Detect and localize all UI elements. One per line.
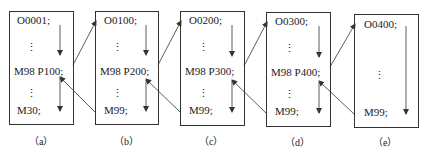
flow-arrows — [0, 0, 425, 154]
